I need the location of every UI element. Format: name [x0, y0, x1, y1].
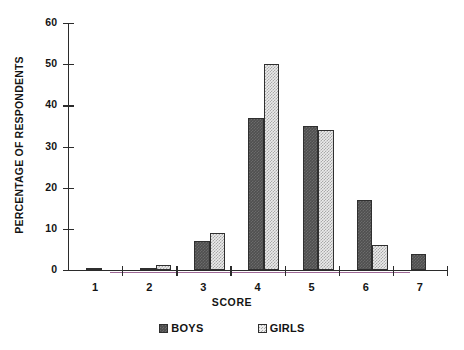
- bar-boys-score-5: [303, 126, 319, 270]
- y-axis-tick: 30: [63, 147, 74, 148]
- legend-item-boys: BOYS: [159, 322, 203, 334]
- legend-swatch-boys-icon: [159, 324, 168, 333]
- chart-legend: BOYS GIRLS: [0, 322, 464, 334]
- x-axis-tick: [393, 266, 394, 276]
- plot-area: 0102030405060 1234567: [68, 23, 447, 270]
- x-axis-tick-label: 7: [400, 281, 440, 293]
- x-axis-tick: [122, 266, 123, 276]
- bar-girls-score-5: [318, 130, 334, 270]
- bar-boys-score-1: [86, 268, 102, 270]
- x-axis-tick-label: 4: [238, 281, 278, 293]
- legend-item-girls: GIRLS: [258, 322, 305, 334]
- y-axis-tick: 10: [63, 229, 74, 230]
- bar-boys-score-7: [411, 254, 427, 270]
- x-axis-tick-label: 3: [183, 281, 223, 293]
- legend-swatch-girls-icon: [258, 324, 267, 333]
- legend-label-girls: GIRLS: [270, 322, 305, 334]
- x-axis-tick-label: 1: [75, 281, 115, 293]
- x-axis-tick: [230, 266, 231, 276]
- bar-girls-score-4: [264, 64, 280, 270]
- bar-boys-score-2: [140, 268, 156, 270]
- bar-girls-score-6: [372, 245, 388, 270]
- bar-girls-score-3: [210, 233, 226, 270]
- x-axis-tick: [447, 266, 448, 276]
- y-axis-tick-label: 20: [45, 181, 57, 193]
- x-axis-tick-label: 5: [292, 281, 332, 293]
- y-axis-title: PERCENTAGE OF RESPONDENTS: [6, 0, 32, 290]
- bar-boys-score-3: [194, 241, 210, 270]
- y-axis-tick: 50: [63, 64, 74, 65]
- bar-girls-score-2: [156, 265, 172, 270]
- y-axis-tick-label: 10: [45, 222, 57, 234]
- y-axis-tick-label: 50: [45, 57, 57, 69]
- y-axis-title-text: PERCENTAGE OF RESPONDENTS: [13, 56, 25, 234]
- y-axis-tick-label: 30: [45, 140, 57, 152]
- y-axis-tick-label: 60: [45, 16, 57, 28]
- y-axis-tick: 20: [63, 188, 74, 189]
- y-axis-tick: 60: [63, 23, 74, 24]
- bar-chart: PERCENTAGE OF RESPONDENTS 0102030405060 …: [0, 0, 464, 350]
- x-axis-scan-artifact: [110, 272, 410, 273]
- bar-boys-score-6: [357, 200, 373, 270]
- x-axis-tick: [176, 266, 177, 276]
- legend-label-boys: BOYS: [171, 322, 203, 334]
- x-axis-tick: [285, 266, 286, 276]
- y-axis-tick: 40: [63, 105, 74, 106]
- y-axis-tick-label: 0: [51, 263, 57, 275]
- x-axis-tick: [339, 266, 340, 276]
- x-axis-tick-label: 6: [346, 281, 386, 293]
- x-axis-tick-label: 2: [129, 281, 169, 293]
- x-axis-title: SCORE: [0, 296, 464, 308]
- y-axis-tick-label: 40: [45, 98, 57, 110]
- y-axis-tick: 0: [63, 270, 74, 271]
- bar-boys-score-4: [248, 118, 264, 270]
